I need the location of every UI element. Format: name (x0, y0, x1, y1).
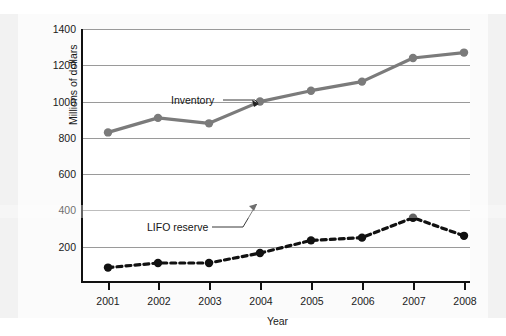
x-tick-label: 2006 (340, 295, 386, 307)
x-tick-label: 2001 (85, 295, 131, 307)
y-tick-label: 400 (36, 204, 76, 216)
x-tick-label: 2002 (136, 295, 182, 307)
lifo-leader-line (212, 205, 256, 227)
x-tick-label: 2008 (442, 295, 488, 307)
x-tick-label: 2004 (238, 295, 284, 307)
chart-figure: 1400 1200 1000 800 600 400 200 2001 2002… (18, 14, 488, 318)
x-tick (260, 283, 262, 290)
x-axis-title: Year (83, 315, 472, 327)
x-tick-label: 2007 (391, 295, 437, 307)
plot-area: 1400 1200 1000 800 600 400 200 2001 2002… (81, 29, 470, 283)
y-tick-label: 800 (36, 132, 76, 144)
x-tick-label: 2005 (289, 295, 335, 307)
x-tick-label: 2003 (187, 295, 233, 307)
x-tick (108, 283, 110, 290)
x-tick (158, 283, 160, 290)
y-tick-label: 200 (36, 241, 76, 253)
x-tick (464, 283, 466, 290)
lifo-arrowhead (249, 204, 257, 211)
x-tick (311, 283, 313, 290)
y-axis-title: Millions of dollars (67, 5, 79, 125)
annotation-leader-lines (83, 29, 472, 283)
y-tick-label: 600 (36, 168, 76, 180)
x-tick (413, 283, 415, 290)
x-tick (362, 283, 364, 290)
x-tick (209, 283, 211, 290)
